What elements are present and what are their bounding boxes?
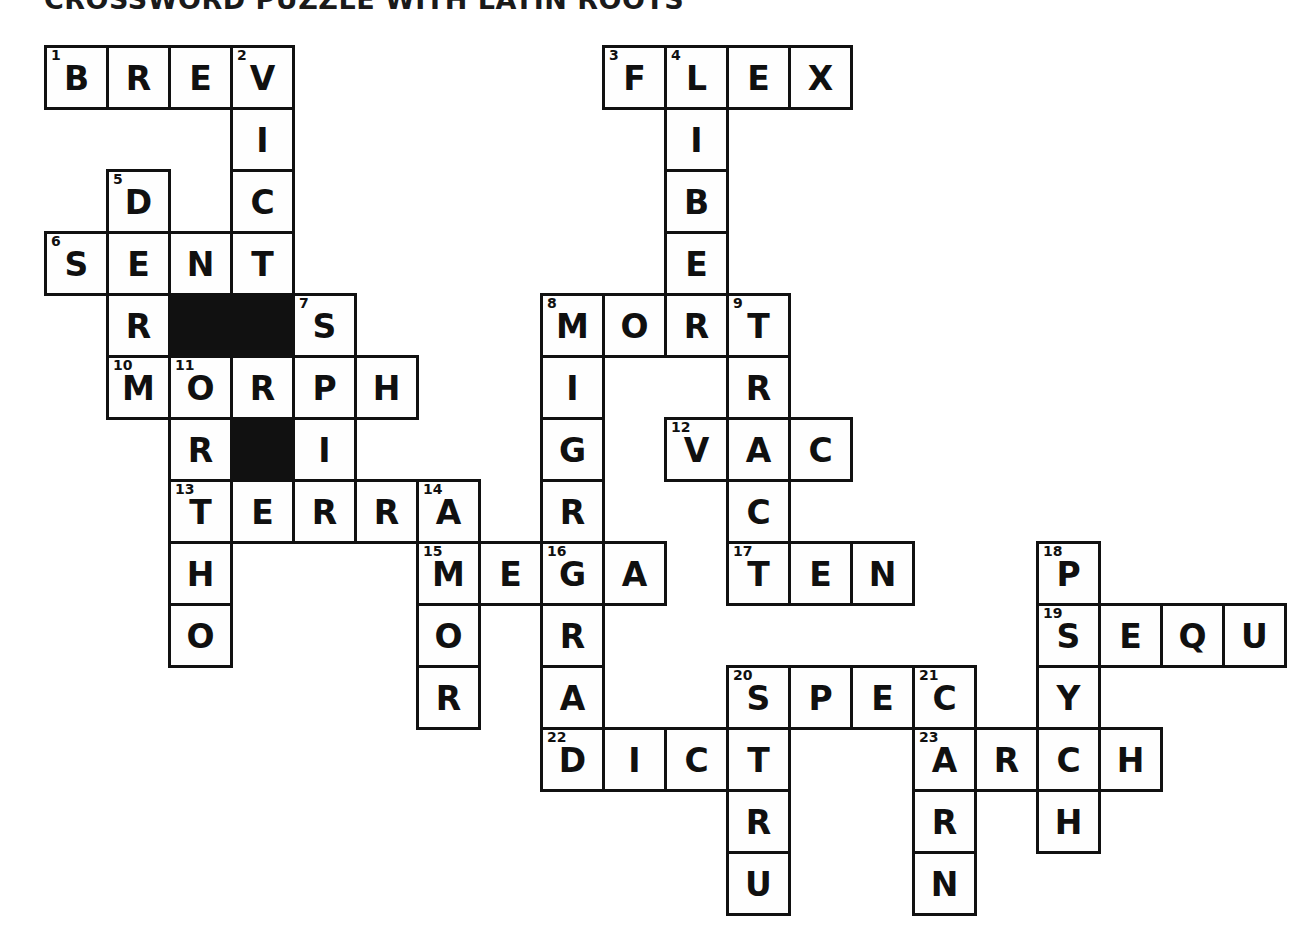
- grid-cell[interactable]: R: [540, 603, 605, 668]
- grid-cell[interactable]: 8M: [540, 293, 605, 358]
- cell-letter: E: [791, 558, 850, 591]
- grid-cell[interactable]: 10M: [106, 355, 171, 420]
- grid-cell[interactable]: E: [664, 231, 729, 296]
- grid-cell[interactable]: 19S: [1036, 603, 1101, 668]
- grid-cell[interactable]: H: [354, 355, 419, 420]
- grid-cell[interactable]: G: [540, 417, 605, 482]
- grid-cell[interactable]: R: [416, 665, 481, 730]
- grid-cell[interactable]: R: [540, 479, 605, 544]
- cell-letter: B: [47, 62, 106, 95]
- grid-cell[interactable]: R: [974, 727, 1039, 792]
- grid-cell[interactable]: E: [230, 479, 295, 544]
- grid-cell[interactable]: P: [292, 355, 357, 420]
- grid-cell[interactable]: 18P: [1036, 541, 1101, 606]
- grid-cell[interactable]: N: [912, 851, 977, 916]
- grid-cell[interactable]: 6S: [44, 231, 109, 296]
- grid-cell[interactable]: 5D: [106, 169, 171, 234]
- grid-cell[interactable]: 13T: [168, 479, 233, 544]
- cell-number: 1: [51, 48, 61, 63]
- grid-cell[interactable]: H: [168, 541, 233, 606]
- cell-letter: A: [915, 744, 974, 777]
- grid-cell[interactable]: 17T: [726, 541, 791, 606]
- grid-cell[interactable]: 15M: [416, 541, 481, 606]
- cell-letter: P: [295, 372, 354, 405]
- grid-cell[interactable]: R: [726, 789, 791, 854]
- grid-cell[interactable]: N: [168, 231, 233, 296]
- grid-cell[interactable]: 12V: [664, 417, 729, 482]
- cell-letter: E: [667, 248, 726, 281]
- grid-cell[interactable]: R: [664, 293, 729, 358]
- grid-cell[interactable]: R: [354, 479, 419, 544]
- grid-cell[interactable]: C: [1036, 727, 1101, 792]
- cell-letter: E: [1101, 620, 1160, 653]
- grid-cell[interactable]: O: [416, 603, 481, 668]
- cell-number: 9: [733, 296, 743, 311]
- grid-cell[interactable]: E: [726, 45, 791, 110]
- grid-cell[interactable]: A: [726, 417, 791, 482]
- grid-block: [168, 293, 233, 358]
- grid-cell[interactable]: C: [726, 479, 791, 544]
- grid-cell[interactable]: 7S: [292, 293, 357, 358]
- grid-cell[interactable]: X: [788, 45, 853, 110]
- grid-cell[interactable]: R: [106, 293, 171, 358]
- grid-cell[interactable]: I: [292, 417, 357, 482]
- cell-letter: T: [171, 496, 230, 529]
- grid-cell[interactable]: C: [664, 727, 729, 792]
- grid-cell[interactable]: I: [664, 107, 729, 172]
- grid-cell[interactable]: U: [1222, 603, 1287, 668]
- grid-cell[interactable]: I: [540, 355, 605, 420]
- grid-cell[interactable]: E: [168, 45, 233, 110]
- cell-letter: S: [295, 310, 354, 343]
- grid-cell[interactable]: 11O: [168, 355, 233, 420]
- cell-letter: L: [667, 62, 726, 95]
- cell-letter: T: [729, 558, 788, 591]
- grid-cell[interactable]: P: [788, 665, 853, 730]
- grid-cell[interactable]: T: [726, 727, 791, 792]
- grid-cell[interactable]: H: [1098, 727, 1163, 792]
- cell-letter: O: [605, 310, 664, 343]
- grid-cell[interactable]: 2V: [230, 45, 295, 110]
- grid-cell[interactable]: O: [602, 293, 667, 358]
- grid-cell[interactable]: 21C: [912, 665, 977, 730]
- grid-cell[interactable]: E: [788, 541, 853, 606]
- grid-cell[interactable]: U: [726, 851, 791, 916]
- grid-cell[interactable]: 1B: [44, 45, 109, 110]
- grid-cell[interactable]: C: [230, 169, 295, 234]
- grid-cell[interactable]: E: [850, 665, 915, 730]
- grid-cell[interactable]: 20S: [726, 665, 791, 730]
- cell-letter: T: [233, 248, 292, 281]
- grid-cell[interactable]: T: [230, 231, 295, 296]
- grid-cell[interactable]: E: [106, 231, 171, 296]
- grid-cell[interactable]: O: [168, 603, 233, 668]
- grid-cell[interactable]: R: [106, 45, 171, 110]
- grid-cell[interactable]: 16G: [540, 541, 605, 606]
- cell-number: 3: [609, 48, 619, 63]
- cell-letter: I: [233, 124, 292, 157]
- grid-cell[interactable]: 3F: [602, 45, 667, 110]
- grid-cell[interactable]: R: [230, 355, 295, 420]
- grid-cell[interactable]: Y: [1036, 665, 1101, 730]
- cell-letter: E: [853, 682, 912, 715]
- grid-cell[interactable]: 9T: [726, 293, 791, 358]
- cell-letter: Y: [1039, 682, 1098, 715]
- grid-cell[interactable]: R: [292, 479, 357, 544]
- grid-cell[interactable]: E: [478, 541, 543, 606]
- grid-cell[interactable]: 23A: [912, 727, 977, 792]
- grid-cell[interactable]: B: [664, 169, 729, 234]
- grid-cell[interactable]: I: [230, 107, 295, 172]
- grid-cell[interactable]: 22D: [540, 727, 605, 792]
- grid-cell[interactable]: E: [1098, 603, 1163, 668]
- cell-letter: U: [729, 868, 788, 901]
- grid-cell[interactable]: A: [540, 665, 605, 730]
- grid-cell[interactable]: R: [726, 355, 791, 420]
- grid-cell[interactable]: C: [788, 417, 853, 482]
- grid-cell[interactable]: H: [1036, 789, 1101, 854]
- grid-cell[interactable]: R: [168, 417, 233, 482]
- grid-cell[interactable]: 14A: [416, 479, 481, 544]
- grid-cell[interactable]: N: [850, 541, 915, 606]
- grid-cell[interactable]: Q: [1160, 603, 1225, 668]
- grid-cell[interactable]: 4L: [664, 45, 729, 110]
- grid-cell[interactable]: R: [912, 789, 977, 854]
- grid-cell[interactable]: A: [602, 541, 667, 606]
- grid-cell[interactable]: I: [602, 727, 667, 792]
